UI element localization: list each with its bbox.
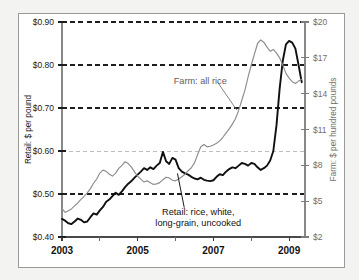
farm-annotation-line-0: Farm: all rice (174, 76, 227, 86)
retail-annotation-line-1: long-grain, uncooked (155, 218, 241, 228)
right-tick-label-2: $8 (313, 160, 323, 170)
left-tick-label-4: $0.80 (33, 60, 55, 70)
chart-screenshot: $0.40$0.50$0.60$0.70$0.80$0.90$2$5$8$11$… (0, 0, 359, 280)
annotation-leader-retail (177, 173, 184, 207)
right-tick-label-5: $17 (313, 53, 327, 63)
retail-annotation-line-0: Retail: rice, white, (162, 207, 235, 217)
left-tick-label-5: $0.90 (33, 17, 55, 27)
x-tick-label-3: 2009 (278, 245, 301, 256)
right-tick-label-3: $11 (313, 125, 327, 135)
left-axis-title: Retail: $ per pound (24, 94, 33, 164)
left-tick-label-0: $0.40 (33, 232, 55, 242)
right-tick-label-6: $20 (313, 17, 327, 27)
x-tick-label-1: 2005 (127, 245, 150, 256)
x-tick-label-0: 2003 (51, 245, 74, 256)
left-tick-label-2: $0.60 (33, 146, 55, 156)
x-tick-label-2: 2007 (202, 245, 225, 256)
right-tick-label-1: $5 (313, 196, 323, 206)
left-tick-label-3: $0.70 (33, 103, 55, 113)
rice-price-chart: $0.40$0.50$0.60$0.70$0.80$0.90$2$5$8$11$… (0, 0, 359, 280)
chart-canvas: $0.40$0.50$0.60$0.70$0.80$0.90$2$5$8$11$… (0, 0, 359, 280)
right-tick-label-0: $2 (313, 232, 323, 242)
right-tick-label-4: $14 (313, 89, 327, 99)
left-tick-label-1: $0.50 (33, 189, 55, 199)
annotation-leader-farm (218, 82, 237, 110)
right-axis-title: Farm: $ per hundred pounds (329, 78, 338, 182)
series-line-farm (62, 40, 302, 213)
